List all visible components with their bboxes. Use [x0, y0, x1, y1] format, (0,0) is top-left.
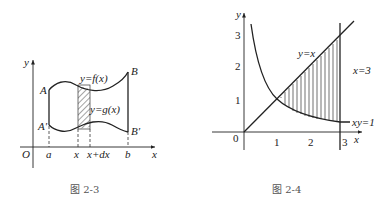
tick-b: b	[125, 148, 131, 160]
curve-f-label: y=f(x)	[79, 72, 108, 85]
tick-x: x	[73, 148, 79, 160]
line-y-equals-x	[244, 21, 354, 132]
x-tick-1: 1	[274, 136, 280, 148]
label-x-equals-3: x=3	[352, 64, 371, 76]
caption-2-3: 图 2-3	[70, 184, 99, 195]
label-xy-equals-1: xy=1	[351, 116, 375, 128]
tick-a: a	[46, 148, 52, 160]
y-tick-3: 3	[235, 29, 241, 41]
y-axis-label: y	[23, 56, 29, 68]
x-axis-label: x	[151, 148, 157, 160]
figure-2-4: 0 1 2 3 1 2 3 y x y=x x=3 xy=1 图 2-4	[212, 8, 375, 195]
curve-g-label: y=g(x)	[89, 103, 120, 116]
point-A: A	[39, 84, 47, 96]
label-y-equals-x: y=x	[297, 47, 315, 59]
origin-label: 0	[233, 132, 239, 144]
figure-2-3: y x O a x x+dx b A A′ B B′ y=f(x) y=g(x)…	[20, 56, 157, 195]
point-B: B	[131, 65, 138, 77]
x-tick-3: 3	[342, 136, 348, 148]
x-tick-2: 2	[308, 136, 314, 148]
origin-label: O	[22, 148, 30, 160]
figure-canvas: y x O a x x+dx b A A′ B B′ y=f(x) y=g(x)…	[0, 0, 392, 207]
hyperbola-xy-equals-1	[251, 24, 350, 122]
y-tick-1: 1	[235, 94, 241, 106]
x-axis-label: x	[353, 133, 359, 145]
point-A-prime: A′	[37, 120, 48, 132]
point-B-prime: B′	[131, 125, 141, 137]
y-axis-label: y	[235, 8, 241, 20]
caption-2-4: 图 2-4	[272, 184, 301, 195]
y-tick-2: 2	[235, 60, 241, 72]
tick-x-dx: x+dx	[86, 148, 110, 160]
